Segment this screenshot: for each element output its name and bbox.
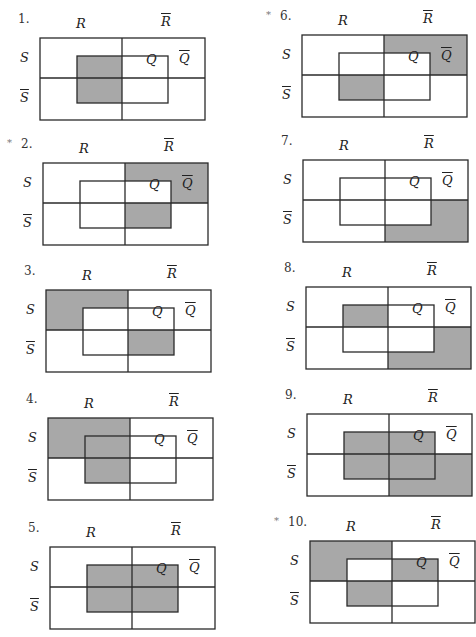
label-q-bar: Q	[442, 173, 453, 188]
venn-figure	[14, 517, 254, 637]
label-r-bar: R	[167, 266, 177, 281]
label-r: R	[86, 525, 96, 540]
label-r-bar: R	[428, 390, 438, 405]
shaded-region-s-notr-q	[392, 559, 438, 581]
shaded-region-s-notr-q	[132, 565, 178, 587]
shaded-region-nots-r-q	[344, 454, 389, 479]
venn-figure	[7, 133, 247, 263]
label-s: S	[23, 175, 32, 190]
shaded-region-nots-notr-q	[125, 203, 171, 228]
label-s-bar: S	[282, 87, 291, 102]
label-q-bar: Q	[441, 48, 452, 63]
label-q: Q	[409, 174, 420, 189]
label-q: Q	[146, 52, 157, 67]
label-r: R	[79, 141, 89, 156]
label-q: Q	[154, 432, 165, 447]
label-r-bar: R	[431, 517, 441, 532]
label-s-bar: S	[283, 212, 292, 227]
shaded-region-s-r-q	[77, 56, 122, 78]
shaded-region-s-r-q	[344, 432, 389, 454]
shaded-region-s-notr-notq	[384, 35, 467, 75]
shaded-region-s-r-q	[343, 305, 388, 327]
label-r: R	[82, 268, 92, 283]
label-q: Q	[413, 428, 424, 443]
label-r-bar: R	[171, 523, 181, 538]
label-r: R	[76, 16, 86, 31]
label-q-bar: Q	[449, 554, 460, 569]
venn-figure	[10, 260, 250, 390]
shaded-region-s-r-q	[85, 436, 130, 458]
label-s: S	[26, 302, 35, 317]
shaded-region-nots-notr-q	[128, 330, 174, 355]
venn-diagram-7: 7.RRSSQQ	[267, 130, 476, 255]
label-q-bar: Q	[189, 560, 200, 575]
label-r: R	[339, 138, 349, 153]
venn-diagram-2: *2.RRSSQQ	[7, 133, 237, 258]
label-r-bar: R	[164, 139, 174, 154]
venn-diagram-10: *10.RRSSQQ	[274, 511, 476, 636]
label-q-bar: Q	[445, 300, 456, 315]
venn-figure	[270, 257, 476, 387]
label-s: S	[287, 426, 296, 441]
shaded-region-s-notr-notq	[125, 163, 208, 203]
label-q-bar: Q	[182, 176, 193, 191]
label-q: Q	[152, 304, 163, 319]
label-r-bar: R	[161, 14, 171, 29]
venn-figure	[271, 384, 476, 514]
venn-diagram-3: 3.RRSSQQ	[10, 260, 240, 385]
label-s-bar: S	[30, 599, 39, 614]
label-r: R	[343, 392, 353, 407]
label-r: R	[346, 519, 356, 534]
label-s: S	[290, 553, 299, 568]
label-r-bar: R	[423, 11, 433, 26]
label-q-bar: Q	[446, 427, 457, 442]
label-q: Q	[416, 555, 427, 570]
shaded-region-s-r-notq	[310, 541, 392, 581]
venn-diagram-9: 9.RRSSQQ	[271, 384, 476, 509]
venn-figure	[12, 388, 252, 518]
shaded-region-s-r-q	[87, 565, 132, 587]
shaded-region-nots-notr-q	[132, 587, 178, 612]
label-s: S	[28, 430, 37, 445]
shaded-region-nots-notr-q	[389, 454, 435, 479]
venn-figure	[266, 5, 476, 135]
label-q: Q	[149, 177, 160, 192]
venn-figure	[267, 130, 476, 260]
label-q-bar: Q	[185, 303, 196, 318]
label-s-bar: S	[20, 90, 29, 105]
label-s: S	[282, 47, 291, 62]
label-q: Q	[156, 561, 167, 576]
label-r-bar: R	[424, 136, 434, 151]
label-q: Q	[412, 301, 423, 316]
venn-figure	[274, 511, 476, 637]
label-q: Q	[408, 49, 419, 64]
shaded-region-s-notr-q	[389, 432, 435, 454]
venn-diagram-6: *6.RRSSQQ	[266, 5, 476, 130]
venn-figure	[4, 8, 244, 138]
label-q-bar: Q	[179, 51, 190, 66]
venn-diagram-1: 1.RRSSQQ	[4, 8, 234, 133]
shaded-region-nots-r-q	[87, 587, 132, 612]
shaded-region-nots-r-q	[347, 581, 392, 606]
label-s-bar: S	[28, 470, 37, 485]
label-s: S	[283, 172, 292, 187]
label-s-bar: S	[23, 215, 32, 230]
venn-diagram-8: 8.RRSSQQ	[270, 257, 476, 382]
label-s-bar: S	[290, 593, 299, 608]
label-s-bar: S	[286, 339, 295, 354]
shaded-region-nots-r-q	[339, 75, 384, 100]
label-r: R	[84, 396, 94, 411]
venn-diagram-5: 5.RRSSQQ	[14, 517, 244, 637]
label-r: R	[338, 13, 348, 28]
shaded-region-nots-notr-notq	[388, 327, 471, 369]
shaded-region-nots-r-q	[85, 458, 130, 483]
label-s-bar: S	[287, 466, 296, 481]
label-s: S	[286, 299, 295, 314]
shaded-region-nots-r-q	[77, 78, 122, 103]
label-s: S	[30, 559, 39, 574]
label-s: S	[20, 50, 29, 65]
shaded-region-nots-notr-notq	[385, 200, 468, 242]
label-s-bar: S	[26, 342, 35, 357]
label-r-bar: R	[169, 394, 179, 409]
label-r: R	[342, 265, 352, 280]
